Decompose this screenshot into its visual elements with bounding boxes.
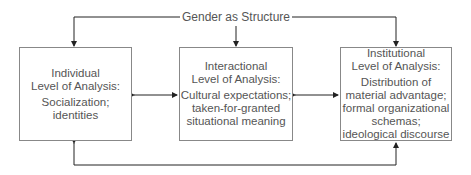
body-line: situational meaning: [180, 115, 292, 128]
box-body: Distribution of material advantage; form…: [341, 76, 451, 141]
box-body: Socialization; identities: [20, 96, 131, 122]
body-line: Socialization;: [20, 96, 131, 109]
body-line: Cultural expectations;: [180, 89, 292, 102]
heading-line: Level of Analysis:: [180, 73, 292, 86]
box-body: Cultural expectations; taken-for-granted…: [180, 89, 292, 128]
title-to-institutional-arrow: [292, 17, 396, 46]
title-to-individual-arrow: [74, 17, 180, 46]
body-line: formal organizational: [341, 102, 451, 115]
institutional-level-box: Institutional Level of Analysis: Distrib…: [340, 47, 452, 141]
individual-institutional-loop-arrow: [74, 143, 396, 165]
heading-line: Interactional: [180, 60, 292, 73]
individual-level-box: Individual Level of Analysis: Socializat…: [19, 47, 132, 141]
box-heading: Interactional Level of Analysis:: [180, 60, 292, 86]
body-line: ideological discourse: [341, 128, 451, 141]
body-line: schemas;: [341, 115, 451, 128]
box-heading: Individual Level of Analysis:: [20, 67, 131, 93]
heading-line: Individual: [20, 67, 131, 80]
body-line: taken-for-granted: [180, 102, 292, 115]
body-line: Distribution of: [341, 76, 451, 89]
body-line: identities: [20, 109, 131, 122]
interactional-level-box: Interactional Level of Analysis: Cultura…: [179, 47, 293, 141]
heading-line: Level of Analysis:: [20, 80, 131, 93]
body-line: material advantage;: [341, 89, 451, 102]
heading-line: Institutional: [341, 47, 451, 60]
box-heading: Institutional Level of Analysis:: [341, 47, 451, 73]
diagram-title: Gender as Structure: [180, 9, 292, 25]
heading-line: Level of Analysis:: [341, 60, 451, 73]
